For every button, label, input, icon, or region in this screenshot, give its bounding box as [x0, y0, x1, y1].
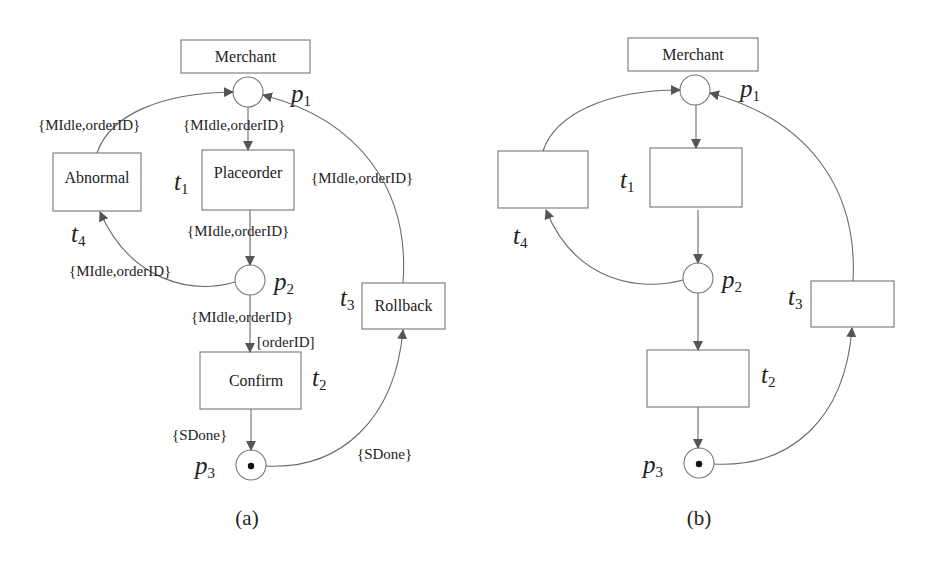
token-icon: [696, 461, 702, 467]
transition-t3-label: t3: [340, 284, 354, 313]
place-p3-label: p3: [641, 451, 663, 480]
merchant-header-label: Merchant: [215, 48, 277, 65]
arc-label-p3-t3: {SDone}: [357, 446, 412, 462]
transition-t4-label: t4: [513, 222, 528, 251]
transition-t1-label: t1: [620, 166, 634, 195]
transition-t2-label: t2: [312, 364, 326, 393]
panel-a-caption: (a): [235, 506, 258, 530]
arc-label-t3-p1: {MIdle,orderID}: [311, 170, 413, 186]
transition-t1-box: [650, 148, 742, 207]
place-p1: [233, 77, 263, 107]
arc-label-t1-p2: {MIdle,orderID}: [187, 223, 289, 239]
transition-t3-label: t3: [788, 283, 802, 312]
arc-label-p1-t1: {MIdle,orderID}: [183, 117, 285, 133]
transition-t1-label: t1: [174, 168, 188, 197]
place-p2-label: p2: [720, 266, 742, 295]
arc-label-t4-p1: {MIdle,orderID}: [38, 117, 140, 133]
panel-a: Merchant p1 Placeorder t1 Abnormal t4 p2…: [38, 40, 445, 530]
petri-net-figure: Merchant p1 Placeorder t1 Abnormal t4 p2…: [0, 0, 930, 569]
transition-t4-label: t4: [71, 220, 86, 249]
panel-b-caption: (b): [687, 506, 712, 530]
place-p1-label: p1: [738, 75, 760, 104]
arc-p2-t4: [546, 210, 683, 284]
arc-label-p2-t4: {MIdle,orderID}: [69, 263, 171, 279]
transition-t2-label: t2: [761, 361, 775, 390]
panel-b: Merchant p1 t1 t4 p2 t3 t2 p3 (b): [498, 38, 894, 530]
transition-t3-box: [811, 281, 894, 327]
transition-t3-name: Rollback: [375, 297, 433, 314]
transition-t2-box: [647, 350, 749, 407]
place-p3-label: p3: [193, 452, 215, 481]
arc-t4-p1: [543, 90, 680, 151]
place-p2: [235, 265, 265, 295]
merchant-header-label: Merchant: [662, 46, 724, 63]
transition-t2-guard: [orderID]: [257, 334, 314, 350]
transition-t4-box: [498, 151, 588, 208]
token-icon: [248, 463, 254, 469]
transition-t2-name: Confirm: [229, 372, 284, 389]
transition-t1-name: Placeorder: [214, 164, 283, 181]
arc-label-p2-t2: {MIdle,orderID}: [191, 309, 293, 325]
place-p1: [680, 75, 710, 105]
transition-t4-name: Abnormal: [65, 169, 130, 186]
place-p2-label: p2: [272, 268, 294, 297]
place-p2: [683, 263, 713, 293]
arc-label-t2-p3: {SDone}: [172, 427, 227, 443]
